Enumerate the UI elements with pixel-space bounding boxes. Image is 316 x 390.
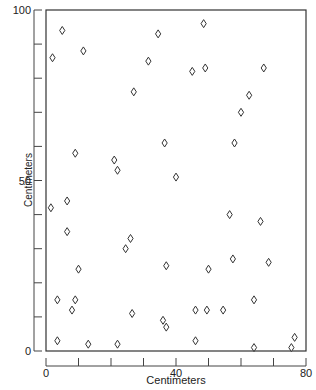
diamond-marker [73, 149, 78, 157]
y-axis-title: Centimeters [23, 153, 34, 207]
diamond-marker [128, 234, 133, 242]
diamond-marker [81, 47, 86, 55]
diamond-marker [130, 309, 135, 317]
diamond-marker [164, 262, 169, 270]
diamond-marker [289, 344, 294, 352]
diamond-marker [261, 64, 266, 72]
diamond-marker [227, 211, 232, 219]
diamond-marker [48, 204, 53, 212]
scatter-plot: 05010004080 [0, 0, 316, 390]
diamond-marker [292, 333, 297, 341]
diamond-marker [266, 258, 271, 266]
diamond-marker [115, 340, 120, 348]
x-tick-label: 80 [300, 367, 312, 379]
diamond-marker [164, 323, 169, 331]
y-tick-label: 100 [13, 4, 31, 16]
diamond-marker [232, 139, 237, 147]
diamond-marker [55, 337, 60, 345]
diamond-marker [251, 344, 256, 352]
x-tick-label: 0 [43, 367, 49, 379]
diamond-marker [251, 296, 256, 304]
diamond-marker [55, 296, 60, 304]
diamond-marker [115, 166, 120, 174]
diamond-marker [258, 217, 263, 225]
diamond-marker [156, 30, 161, 38]
diamond-marker [69, 306, 74, 314]
diamond-marker [221, 306, 226, 314]
diamond-marker [162, 139, 167, 147]
diamond-marker [131, 88, 136, 96]
diamond-marker [65, 228, 70, 236]
diamond-marker [112, 156, 117, 164]
diamond-marker [76, 265, 81, 273]
diamond-marker [160, 316, 165, 324]
diamond-marker [86, 340, 91, 348]
diamond-marker [203, 64, 208, 72]
x-axis-title: Centimeters [146, 374, 205, 386]
diamond-marker [50, 54, 55, 62]
diamond-marker [60, 26, 65, 34]
y-tick-label: 0 [25, 345, 31, 357]
diamond-marker [204, 306, 209, 314]
diamond-marker [193, 306, 198, 314]
diamond-marker [230, 255, 235, 263]
diamond-marker [206, 265, 211, 273]
diamond-marker [123, 245, 128, 253]
diamond-marker [173, 173, 178, 181]
diamond-marker [238, 108, 243, 116]
diamond-marker [73, 296, 78, 304]
diamond-marker [65, 197, 70, 205]
diamond-marker [146, 57, 151, 65]
diamond-marker [193, 337, 198, 345]
diamond-marker [201, 20, 206, 28]
diamond-marker [247, 91, 252, 99]
diamond-marker [190, 67, 195, 75]
